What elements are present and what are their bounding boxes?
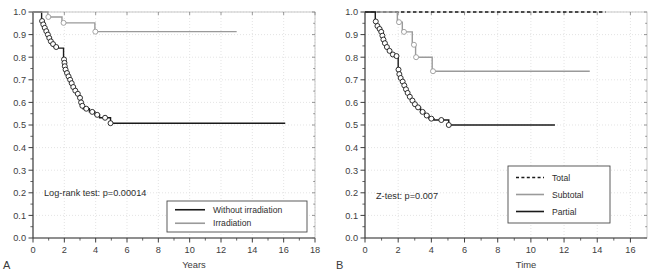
legend-label-without-irradiation: Without irradiation [213, 205, 282, 215]
censor-marker [420, 109, 425, 114]
y-tick-label: 0.2 [13, 188, 26, 198]
y-tick-label: 0.0 [345, 233, 358, 243]
series-line-partial [365, 12, 555, 125]
censor-marker [46, 14, 51, 19]
figure-container: 0246810121416180.00.10.20.30.40.50.60.70… [0, 0, 664, 273]
x-tick-label: 8 [156, 245, 161, 255]
legend-label-subtotal: Subtotal [552, 190, 584, 200]
series-group [33, 12, 285, 126]
x-axis-ticks: 0246810121416 [362, 238, 635, 255]
y-tick-label: 1.0 [345, 7, 358, 17]
y-tick-label: 0.4 [345, 143, 358, 153]
y-tick-label: 0.3 [345, 166, 358, 176]
censor-marker [431, 69, 436, 74]
censor-marker [401, 29, 406, 34]
x-tick-label: 16 [279, 245, 289, 255]
censor-marker [439, 118, 444, 123]
x-axis-title: Years [182, 259, 206, 270]
y-tick-label: 0.4 [13, 143, 26, 153]
y-tick-label: 0.2 [345, 188, 358, 198]
statistical-test-annotation: Log-rank test: p=0.00014 [44, 188, 146, 198]
y-tick-label: 0.6 [345, 98, 358, 108]
x-tick-label: 2 [62, 245, 67, 255]
y-tick-label: 0.9 [345, 30, 358, 40]
legend[interactable]: TotalSubtotalPartial [508, 166, 610, 223]
y-tick-label: 0.9 [13, 30, 26, 40]
x-tick-label: 16 [625, 245, 635, 255]
censor-marker [446, 123, 451, 128]
panel-b-chart: 02468101214160.00.10.20.30.40.50.60.70.8… [332, 0, 664, 273]
y-tick-label: 0.0 [13, 233, 26, 243]
x-tick-label: 6 [124, 245, 129, 255]
x-tick-label: 6 [462, 245, 467, 255]
panel-a-letter: A [3, 259, 11, 271]
x-tick-label: 14 [247, 245, 257, 255]
x-tick-label: 14 [592, 245, 602, 255]
x-tick-label: 4 [429, 245, 434, 255]
censor-marker [95, 112, 100, 117]
legend[interactable]: Without irradiationIrradiation [167, 201, 307, 232]
y-tick-label: 0.3 [13, 166, 26, 176]
x-tick-label: 18 [310, 245, 320, 255]
censor-marker [397, 20, 402, 25]
censor-marker [394, 54, 399, 59]
right-edge-ticks [312, 12, 315, 238]
censor-marker [424, 113, 429, 118]
censor-marker [103, 115, 108, 120]
censor-marker [416, 105, 421, 110]
statistical-test-annotation: Z-test: p=0.007 [376, 191, 438, 201]
right-edge-ticks [644, 12, 647, 238]
y-tick-label: 0.5 [13, 120, 26, 130]
censor-marker [61, 20, 66, 25]
y-tick-label: 0.7 [345, 75, 358, 85]
censor-marker [84, 106, 89, 111]
y-tick-label: 0.6 [13, 98, 26, 108]
censor-marker [54, 45, 59, 50]
y-tick-label: 0.8 [345, 53, 358, 63]
y-tick-label: 0.7 [13, 75, 26, 85]
panel-b: 02468101214160.00.10.20.30.40.50.60.70.8… [332, 0, 664, 273]
x-tick-label: 12 [559, 245, 569, 255]
x-axis-title: Time [516, 259, 536, 270]
legend-label-partial: Partial [552, 207, 576, 217]
panel-b-letter: B [336, 259, 344, 271]
censor-marker [414, 55, 419, 60]
x-tick-label: 0 [362, 245, 367, 255]
series-line-without-irradiation [33, 12, 285, 123]
y-tick-label: 1.0 [13, 7, 26, 17]
y-tick-label: 0.5 [345, 120, 358, 130]
legend-label-total: Total [552, 173, 570, 183]
x-tick-label: 10 [185, 245, 195, 255]
y-axis-ticks: 0.00.10.20.30.40.50.60.70.80.91.0 [13, 7, 33, 243]
panel-a-chart: 0246810121416180.00.10.20.30.40.50.60.70… [0, 0, 332, 273]
y-tick-label: 0.1 [345, 211, 358, 221]
legend-label-irradiation: Irradiation [213, 218, 251, 228]
censor-marker [429, 116, 434, 121]
censor-marker [90, 109, 95, 114]
series-group [365, 12, 606, 128]
x-tick-label: 10 [526, 245, 536, 255]
censor-marker [108, 121, 113, 126]
y-tick-label: 0.8 [13, 53, 26, 63]
x-axis-ticks: 024681012141618 [30, 238, 320, 255]
top-edge-ticks [33, 12, 315, 15]
x-tick-label: 8 [495, 245, 500, 255]
x-tick-label: 0 [30, 245, 35, 255]
panel-a: 0246810121416180.00.10.20.30.40.50.60.70… [0, 0, 332, 273]
censor-marker [411, 42, 416, 47]
x-tick-label: 2 [396, 245, 401, 255]
censor-marker [93, 29, 98, 34]
x-tick-label: 4 [93, 245, 98, 255]
y-tick-label: 0.1 [13, 211, 26, 221]
y-axis-ticks: 0.00.10.20.30.40.50.60.70.80.91.0 [345, 7, 365, 243]
x-tick-label: 12 [216, 245, 226, 255]
